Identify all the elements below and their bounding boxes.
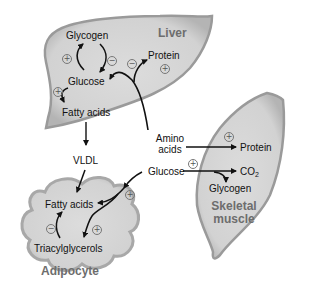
amino-acids-line2: acids [150, 144, 190, 155]
liver-glucose: Glucose [68, 76, 105, 87]
plus-sign-icon: + [92, 225, 102, 235]
amino-acids: Amino acids [150, 133, 190, 155]
skeletal-muscle-label-line2: muscle [206, 213, 262, 226]
muscle-co2: CO2 [240, 166, 259, 180]
liver-label: Liver [158, 27, 187, 40]
vldl: VLDL [73, 155, 98, 166]
minus-sign-icon: − [127, 59, 137, 69]
co2-subscript: 2 [255, 171, 259, 178]
plus-sign-icon: + [224, 132, 234, 142]
amino-acids-line1: Amino [150, 133, 190, 144]
minus-sign-icon: − [46, 224, 56, 234]
plus-sign-icon: + [62, 54, 72, 64]
liver-glycogen: Glycogen [66, 30, 108, 41]
minus-sign-icon: − [107, 56, 117, 66]
adipocyte-triacylglycerols: Triacylglycerols [34, 243, 103, 254]
muscle-protein: Protein [240, 142, 272, 153]
adipocyte-label: Adipocyte [41, 265, 99, 278]
co2-base: CO [240, 166, 255, 177]
plus-sign-icon: + [53, 87, 63, 97]
plus-sign-icon: + [160, 64, 170, 74]
adipocyte-fatty-acids: Fatty acids [45, 199, 93, 210]
muscle-glycogen: Glycogen [209, 183, 251, 194]
liver-fatty-acids: Fatty acids [62, 107, 110, 118]
plus-sign-icon: + [188, 159, 198, 169]
plus-sign-icon: + [125, 190, 135, 200]
liver-protein: Protein [148, 50, 180, 61]
skeletal-muscle-label: Skeletal muscle [206, 200, 262, 226]
blood-glucose: Glucose [148, 166, 185, 177]
